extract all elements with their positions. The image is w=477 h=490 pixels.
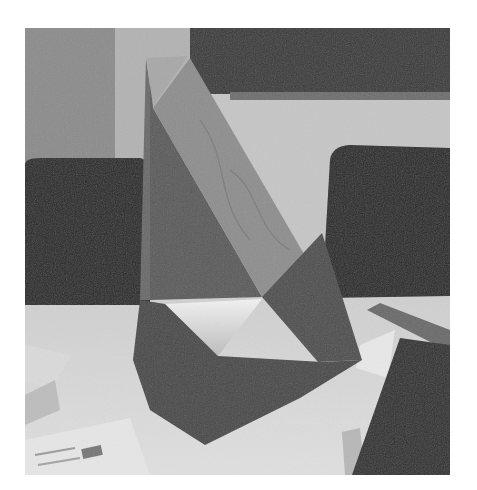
photo — [0, 0, 477, 490]
board — [190, 28, 450, 94]
chair-right — [322, 145, 450, 298]
board-ledge — [230, 92, 450, 100]
chair-left — [25, 158, 150, 305]
sculpture-photo — [0, 0, 477, 490]
